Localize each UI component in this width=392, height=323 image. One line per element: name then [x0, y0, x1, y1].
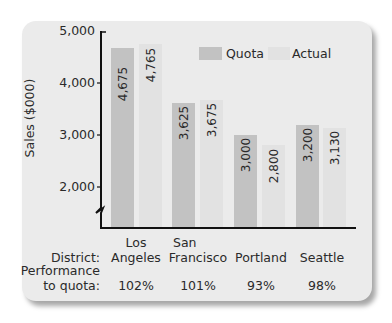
performance-sf: 101% [168, 278, 228, 293]
category-label-portland: Portland [226, 250, 296, 265]
value-label-quota-pdx: 3,000 [239, 138, 253, 172]
legend-swatch-actual [268, 47, 290, 60]
value-label-quota-la: 4,675 [116, 67, 130, 101]
value-label-actual-la: 4,765 [144, 48, 158, 82]
legend-label-quota: Quota [226, 46, 264, 61]
legend-swatch-quota [199, 47, 222, 60]
performance-sea: 98% [292, 278, 352, 293]
value-label-actual-sf: 3,675 [205, 103, 219, 137]
category-label-seattle: Seattle [292, 250, 352, 265]
category-label-san-francisco: San Francisco [163, 235, 233, 265]
value-label-actual-pdx: 2,800 [267, 149, 281, 183]
ytick-label-2000: 2,000 [35, 179, 95, 194]
value-label-quota-sea: 3,200 [301, 128, 315, 162]
performance-pdx: 93% [231, 278, 291, 293]
row-label-to-quota: to quota: [10, 278, 100, 293]
ytick-label-4000: 4,000 [35, 75, 95, 90]
ytick-label-3000: 3,000 [35, 127, 95, 142]
legend-label-actual: Actual [292, 46, 331, 61]
row-label-performance: Performance [10, 263, 100, 278]
category-label-los-angeles: Los Angeles [106, 235, 166, 265]
value-label-quota-sf: 3,625 [177, 106, 191, 140]
ytick-label-5000: 5,000 [35, 23, 95, 38]
value-label-actual-sea: 3,130 [328, 131, 342, 165]
performance-la: 102% [106, 278, 166, 293]
